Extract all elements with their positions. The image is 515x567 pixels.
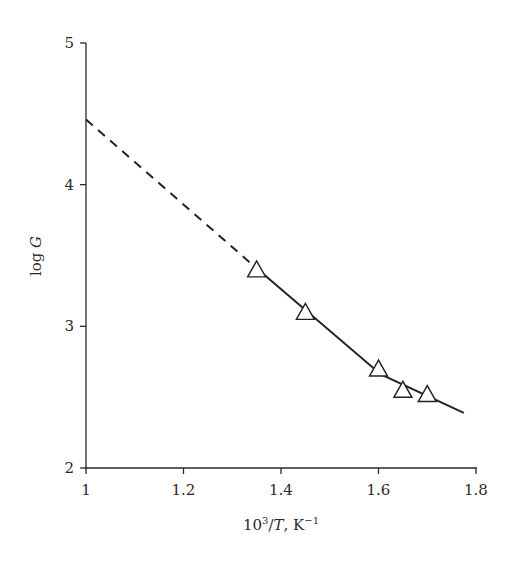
x-ticks: 11.21.41.61.8 (81, 468, 488, 499)
chart: 11.21.41.61.8 2345 103/T, K−1 log G (0, 0, 515, 567)
y-axis-label: log G (27, 236, 45, 276)
y-tick-label: 2 (64, 459, 74, 477)
y-tick-label: 3 (64, 317, 74, 335)
y-ticks: 2345 (64, 34, 86, 477)
axes (85, 43, 477, 469)
data-markers (248, 261, 437, 402)
x-tick-label: 1.4 (269, 481, 293, 499)
x-tick-label: 1 (81, 481, 91, 499)
fit-line-solid (257, 268, 464, 413)
x-tick-label: 1.2 (172, 481, 196, 499)
y-tick-label: 5 (64, 34, 74, 52)
fit-lines (86, 120, 464, 413)
x-tick-label: 1.8 (464, 481, 488, 499)
x-axis-label: 103/T, K−1 (243, 515, 319, 534)
extrapolation-line-dashed (86, 120, 257, 269)
triangle-marker (248, 261, 266, 277)
triangle-marker (394, 381, 412, 397)
y-tick-label: 4 (64, 176, 74, 194)
x-tick-label: 1.6 (367, 481, 391, 499)
